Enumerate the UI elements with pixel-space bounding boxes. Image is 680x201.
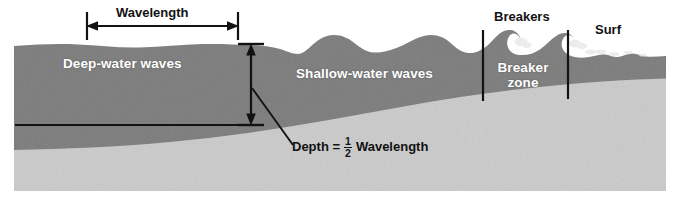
breakers-label: Breakers [494,10,550,25]
breaker-zone-label-line1: Breaker [483,60,563,75]
breaker-zone-label: Breaker zone [483,60,563,90]
breaker-zone-label-line2: zone [483,75,563,90]
surf-label: Surf [595,23,621,38]
wave-zones-diagram: Wavelength Deep-water waves Shallow-wate… [0,0,680,201]
deep-water-waves-label: Deep-water waves [63,56,182,71]
fraction-denominator: 2 [345,148,351,159]
shallow-water-waves-label: Shallow-water waves [296,66,433,81]
depth-equation-trail: Wavelength [356,140,428,155]
one-half-fraction: 1 2 [344,136,352,159]
wavelength-label: Wavelength [116,6,188,21]
fraction-numerator: 1 [344,136,352,148]
diagram-canvas [0,0,680,201]
depth-equation-lead: Depth = [292,140,340,155]
depth-equation-label: Depth = 1 2 Wavelength [292,136,428,159]
